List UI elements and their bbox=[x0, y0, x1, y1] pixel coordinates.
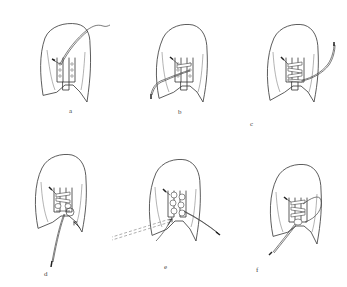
panel-label-f: f bbox=[256, 266, 258, 274]
panel-label-b: b bbox=[178, 108, 182, 116]
panel-label-a: a bbox=[69, 107, 72, 115]
panel-e: e bbox=[110, 155, 230, 280]
shoe-illustration-b bbox=[145, 20, 225, 120]
shoe-illustration-a bbox=[35, 20, 115, 120]
panel-a: a bbox=[35, 20, 115, 120]
shoe-illustration-e bbox=[110, 155, 230, 280]
shoe-illustration-d bbox=[30, 150, 110, 280]
panel-f: f bbox=[265, 160, 347, 285]
shoe-illustration-f bbox=[265, 160, 347, 285]
panel-b: b bbox=[145, 20, 225, 120]
panel-c: c bbox=[262, 20, 347, 120]
shoe-illustration-c bbox=[262, 20, 347, 120]
panel-d: d bbox=[30, 150, 110, 280]
panel-label-c: c bbox=[250, 120, 253, 128]
panel-label-e: e bbox=[164, 263, 167, 271]
panel-label-d: d bbox=[44, 270, 48, 278]
